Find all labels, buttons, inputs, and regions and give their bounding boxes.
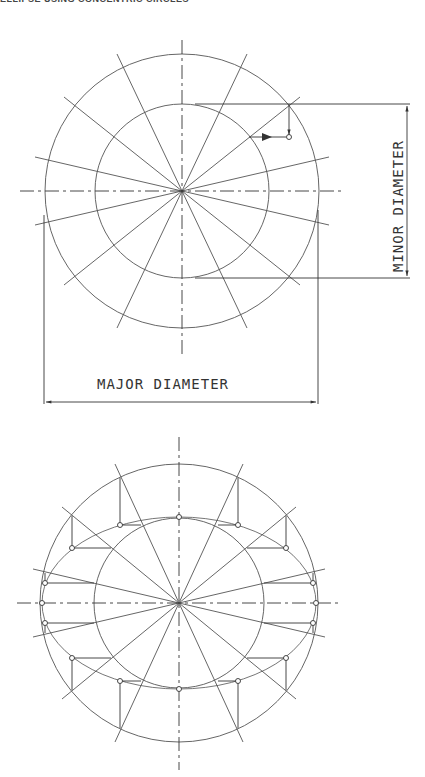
top-construction-figure (20, 40, 410, 404)
bottom-construction-figure (17, 437, 341, 770)
centerlines (20, 40, 345, 358)
ellipse-point (287, 135, 292, 140)
minor-diameter-label: MINOR DIAMETER (390, 140, 406, 272)
drawing-canvas: MAJOR DIAMETER MINOR DIAMETER (0, 0, 425, 777)
major-diameter-label: MAJOR DIAMETER (97, 376, 229, 392)
